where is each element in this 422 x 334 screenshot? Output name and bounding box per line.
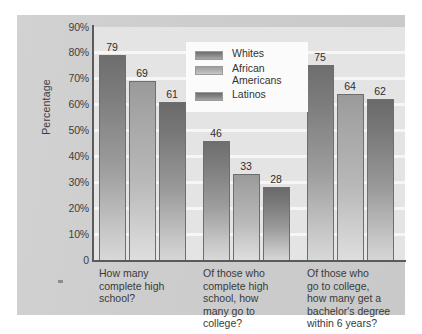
y-axis-line <box>92 25 94 262</box>
y-tick-50: 50% <box>43 124 89 136</box>
bar-g1-whites <box>203 141 230 260</box>
category-label-3: Of those who go to college, how many get… <box>307 267 411 330</box>
y-axis-ticks: 90% 80% 70% 60% 50% 40% 30% 20% 10% 0 <box>37 15 89 262</box>
y-tick-80: 80% <box>43 46 89 58</box>
category-label-2: Of those who complete high school, how m… <box>203 267 303 330</box>
bar-label-g0-whites: 79 <box>92 41 132 53</box>
y-tick-40: 40% <box>43 150 89 162</box>
y-tick-70: 70% <box>43 72 89 84</box>
bar-g2-african-americans <box>337 94 364 260</box>
bar-label-g0-african-americans: 69 <box>122 67 162 79</box>
bar-g2-latinos <box>367 99 394 260</box>
bar-g0-latinos <box>159 102 186 260</box>
y-tick-20: 20% <box>43 202 89 214</box>
bar-label-g1-whites: 46 <box>196 127 236 139</box>
legend-item-african-americans: African Americans <box>195 63 308 86</box>
bar-g0-african-americans <box>129 81 156 260</box>
y-tick-60: 60% <box>43 98 89 110</box>
bar-label-g1-latinos: 28 <box>256 173 296 185</box>
legend-label-african-americans: African Americans <box>232 63 282 86</box>
legend-item-latinos: Latinos <box>195 89 308 101</box>
chart-screenshot: Percentage 90% 80% 70% 60% 50% 40% 30% 2… <box>0 0 422 334</box>
category-label-1: How many complete high school? <box>99 267 199 305</box>
legend-swatch-latinos <box>195 92 223 101</box>
y-tick-10: 10% <box>43 228 89 240</box>
chart-legend: Whites African Americans Latinos <box>186 42 308 112</box>
y-tick-30: 30% <box>43 176 89 188</box>
bar-label-g2-latinos: 62 <box>360 85 400 97</box>
chart-panel: Percentage 90% 80% 70% 60% 50% 40% 30% 2… <box>17 15 405 315</box>
legend-label-latinos: Latinos <box>232 89 266 101</box>
bar-g0-whites <box>99 55 126 260</box>
legend-swatch-african-americans <box>195 66 223 75</box>
bar-g1-african-americans <box>233 174 260 260</box>
stray-tick-mark <box>58 280 63 283</box>
legend-label-whites: Whites <box>232 48 264 60</box>
legend-swatch-whites <box>195 51 223 60</box>
bar-label-g1-african-americans: 33 <box>226 160 266 172</box>
bar-g2-whites <box>307 65 334 260</box>
y-tick-0: 0 <box>43 254 89 266</box>
legend-item-whites: Whites <box>195 48 308 60</box>
y-tick-90: 90% <box>43 21 89 33</box>
x-axis-line <box>92 260 406 262</box>
bar-g1-latinos <box>263 187 290 260</box>
